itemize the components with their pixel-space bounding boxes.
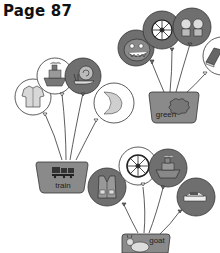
balloon-snail[interactable]: [65, 58, 101, 96]
basket-label-goat: goat: [149, 236, 165, 245]
balloon-book[interactable]: [203, 37, 220, 75]
wheel-icon: [127, 155, 149, 177]
basket-label-train: train: [55, 181, 71, 190]
balloon-cake[interactable]: [177, 178, 215, 216]
train-icon: [52, 167, 74, 178]
balloon-boat-dark[interactable]: [149, 149, 187, 189]
balloon-twins[interactable]: [173, 8, 211, 46]
monster-face-icon: [124, 39, 150, 61]
balloon-moon[interactable]: [94, 83, 134, 123]
wheel-icon: [152, 20, 172, 40]
basket-label-green: green: [156, 110, 176, 119]
basket-goat[interactable]: goat: [122, 234, 170, 253]
basket-green[interactable]: green: [149, 92, 199, 123]
basket-train[interactable]: train: [36, 162, 88, 193]
balloon-worksheet: train: [0, 0, 220, 253]
balloon-group-goat: goat: [88, 147, 215, 253]
